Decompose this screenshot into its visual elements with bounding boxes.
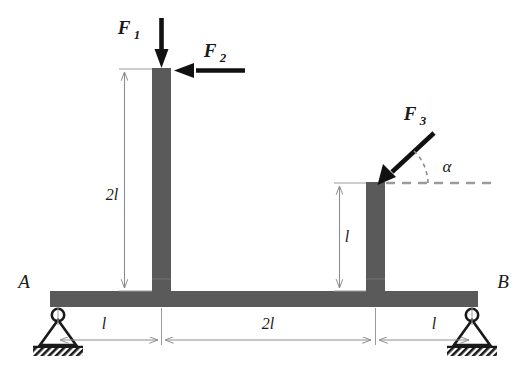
force-f3-arrow — [378, 133, 435, 185]
dimension-right-column-height: l — [334, 183, 366, 291]
diagram-canvas: 2l l l 2l l F — [0, 0, 530, 382]
dim-label-span-between-columns: 2l — [262, 315, 275, 332]
dim-label-span-right-column-to-b: l — [432, 315, 437, 332]
dimension-horizontal-chain: l 2l l — [58, 308, 472, 345]
right-column-member — [366, 182, 385, 292]
force-subscript-f1: 1 — [134, 27, 141, 42]
dim-label-span-a-to-left-column: l — [102, 315, 107, 332]
angle-arc-icon — [414, 151, 428, 183]
support-b-ground-hatching-icon — [447, 348, 497, 356]
support-label-a: A — [16, 271, 30, 292]
force-subscript-f2: 2 — [219, 50, 227, 65]
beam-member — [50, 291, 478, 307]
force-f1-arrow — [155, 18, 169, 68]
dim-label-left-column-height: 2l — [106, 186, 119, 203]
support-label-b: B — [497, 271, 509, 292]
force-f2-arrowhead-icon — [174, 63, 194, 78]
force-f2-arrow — [174, 63, 245, 78]
dim-label-right-column-height: l — [345, 228, 350, 245]
force-subscript-f3: 3 — [419, 113, 427, 128]
beam-diagram: 2l l l 2l l F — [0, 0, 530, 382]
diagram-text-labels: F 1 F 2 F 3 α A B — [16, 17, 509, 292]
force-label-f3: F — [403, 103, 417, 124]
force-label-f1: F — [117, 17, 131, 38]
force-label-f2: F — [203, 40, 217, 61]
support-a-ground-hatching-icon — [33, 348, 83, 356]
angle-alpha-group — [386, 151, 492, 183]
angle-label-alpha: α — [443, 157, 453, 176]
force-f3-shaft-icon — [392, 133, 434, 172]
left-column-member — [152, 68, 171, 292]
force-f1-arrowhead-icon — [155, 49, 169, 68]
dimension-left-column-height: 2l — [106, 69, 152, 291]
